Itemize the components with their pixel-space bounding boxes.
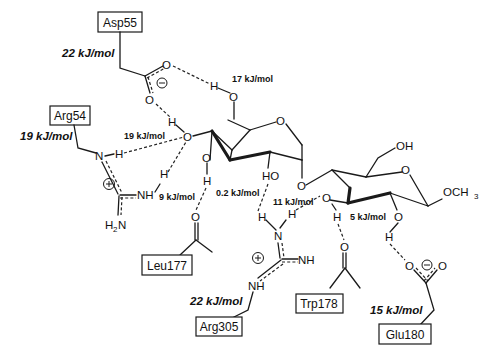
glu180-label: Glu180: [386, 328, 425, 342]
arg305-h1: H: [258, 211, 266, 223]
o2b-atom: O: [394, 211, 403, 223]
o3-atom: O: [202, 152, 211, 164]
ring2-o: O: [401, 164, 410, 176]
asp55-residue: Asp55 22 kJ/mol O O: [61, 12, 171, 106]
arg305-label: Arg305: [200, 320, 239, 334]
och3-sub: 3: [474, 192, 479, 201]
asp55-label: Asp55: [103, 16, 137, 30]
leu177-o: O: [191, 211, 200, 223]
hbond-energy-o6: 17 kJ/mol: [232, 74, 273, 84]
asp55-energy: 22 kJ/mol: [61, 47, 115, 59]
o6-h: H: [210, 80, 218, 92]
arg54-residue: Arg54 19 kJ/mol N H NH H 2 N: [20, 106, 154, 234]
arg54-label: Arg54: [54, 109, 86, 123]
o3-h: H: [203, 175, 211, 187]
glyco-o: O: [297, 180, 306, 192]
arg54-energy: 19 kJ/mol: [20, 130, 73, 142]
asp55-o1: O: [162, 59, 171, 71]
arg305-h2: H: [288, 208, 296, 220]
arg305-n: N: [274, 230, 282, 242]
trp178-o: O: [340, 241, 349, 253]
arg54-h-o3: H: [160, 168, 168, 180]
arg54-nh2: NH: [137, 189, 154, 201]
glu180-o1: O: [405, 260, 414, 272]
glu180-h: H: [385, 231, 393, 243]
asp55-o2: O: [145, 94, 154, 106]
o3b-atom: O: [322, 192, 331, 204]
o6-atom: O: [229, 91, 238, 103]
arg54-n: N: [95, 150, 103, 162]
hbond-energy-o3: 9 kJ/mol: [159, 192, 195, 202]
trp178-label: Trp178: [300, 297, 338, 311]
arg305-nh2: NH: [248, 280, 265, 292]
o4-h: H: [168, 116, 176, 128]
arg54-nh: H: [115, 148, 123, 160]
hbond-energy-o3b: 5 kJ/mol: [350, 212, 386, 222]
hbond-energy-o4: 19 kJ/mol: [124, 131, 165, 141]
hydrogen-bond-diagram: Asp55 22 kJ/mol O O H O 17 kJ/mol H Arg5…: [0, 0, 499, 359]
glu180-residue: H O O 15 kJ/mol Glu180: [370, 223, 447, 344]
och3-label: OCH: [443, 186, 469, 198]
glu180-energy: 15 kJ/mol: [370, 304, 423, 316]
o4-atom: O: [183, 131, 192, 143]
glucose-ring-2: OH O OCH 3 O O: [306, 140, 479, 223]
hbond-energy-o2: 0.2 kJ/mol: [216, 188, 260, 198]
o2-ho: HO: [262, 170, 279, 182]
ring1-o: O: [276, 115, 285, 127]
arg305-nh: NH: [298, 254, 315, 266]
glucose-ring-1: O O O H HO O: [183, 102, 306, 192]
arg305-energy: 22 kJ/mol: [189, 295, 243, 307]
arg54-h2n-n: N: [118, 219, 126, 231]
trp178-h: H: [333, 211, 341, 223]
hbond-energy-arg305: 11 kJ/mol: [273, 197, 314, 207]
c6-oh: OH: [396, 140, 413, 152]
leu177-label: Leu177: [147, 259, 187, 273]
glu180-o2: O: [438, 260, 447, 272]
